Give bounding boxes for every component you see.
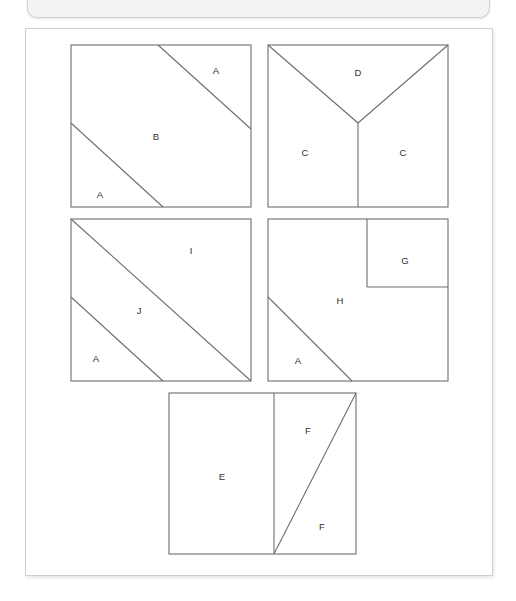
square-2-label-d: D <box>355 67 362 78</box>
square-4-label-h: H <box>337 295 344 306</box>
top-toolbar-strip[interactable] <box>27 0 490 18</box>
square-1-outline <box>71 45 251 207</box>
square-4-label-g: G <box>401 255 408 266</box>
square-3-group: I J A <box>71 219 251 381</box>
square-4-group: G H A <box>268 219 448 381</box>
square-1-label-a-top: A <box>213 65 220 76</box>
geometry-figure-svg: A B A D C C I J A <box>26 29 492 575</box>
square-2-group: D C C <box>268 45 448 207</box>
square-1-group: A B A <box>71 45 251 207</box>
square-5-group: E F F <box>169 393 356 554</box>
square-3-label-a: A <box>93 353 100 364</box>
square-1-label-b: B <box>153 131 159 142</box>
square-1-label-a-bottom: A <box>97 189 104 200</box>
square-4-label-a: A <box>295 355 302 366</box>
square-3-label-i: I <box>190 245 193 256</box>
square-2-label-c-right: C <box>400 147 407 158</box>
square-5-label-f-top: F <box>305 425 311 436</box>
square-5-label-e: E <box>219 471 225 482</box>
figure-panel: A B A D C C I J A <box>25 28 493 576</box>
square-2-label-c-left: C <box>302 147 309 158</box>
square-5-label-f-bottom: F <box>319 521 325 532</box>
square-3-label-j: J <box>137 305 142 316</box>
square-5-outline <box>169 393 356 554</box>
